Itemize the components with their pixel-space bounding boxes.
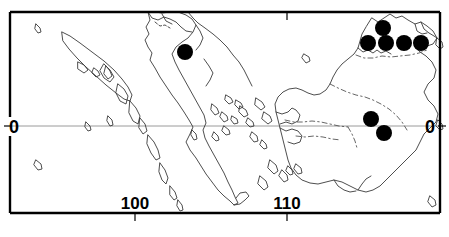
longitude-label-110: 110 xyxy=(273,194,300,213)
longitude-label-100: 100 xyxy=(121,194,149,213)
latitude-label-equator-left: 0 xyxy=(9,117,19,137)
occurrence-marker xyxy=(378,35,394,51)
occurrence-marker xyxy=(360,35,376,51)
latitude-label-equator-right: 0 xyxy=(425,117,435,137)
map-svg: 100 110 0 0 xyxy=(0,0,449,237)
occurrence-marker xyxy=(376,125,392,141)
occurrence-marker xyxy=(177,44,193,60)
occurrence-marker xyxy=(375,20,391,36)
occurrence-marker xyxy=(413,35,429,51)
distribution-map: 100 110 0 0 xyxy=(0,0,449,237)
occurrence-marker xyxy=(396,35,412,51)
occurrence-marker xyxy=(363,111,379,127)
